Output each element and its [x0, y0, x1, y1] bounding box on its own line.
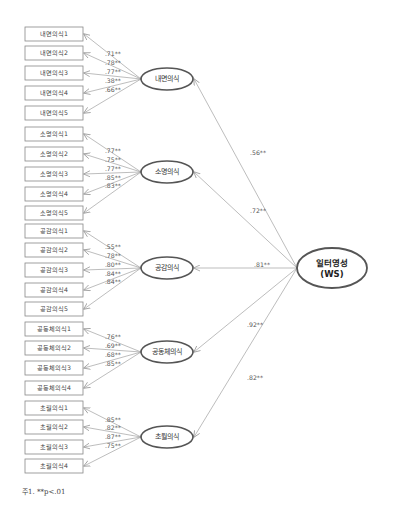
indicator-label: 공감의식2	[40, 246, 68, 254]
loading-value: .77**	[105, 147, 121, 154]
loading-value: .82**	[105, 424, 121, 431]
loading-value: .85**	[105, 174, 121, 181]
loading-value: .84**	[105, 270, 121, 277]
indicator-label: 소명의식5	[40, 209, 68, 217]
indicator-label: 소명의식1	[40, 130, 68, 138]
loading-value: .76**	[105, 333, 121, 340]
loading-value: .75**	[105, 156, 121, 163]
loading-value: .78**	[105, 252, 121, 259]
indicator-label: 초월의식4	[40, 462, 68, 470]
indicator-label: 내면의식3	[40, 69, 68, 77]
indicator-label: 공감의식5	[40, 305, 68, 313]
loading-value: .66**	[105, 86, 121, 93]
nodes-layer	[25, 27, 367, 473]
labels-layer: 내면의식1.71**내면의식2.78**내면의식3.77**내면의식4.38**…	[37, 30, 348, 470]
loading-value: .71**	[105, 50, 121, 57]
loading-arrow	[84, 79, 141, 113]
indicator-label: 소명의식2	[40, 150, 68, 158]
loading-value: .68**	[105, 351, 121, 358]
indicator-label: 공동체의식2	[37, 344, 71, 352]
indicator-label: 초월의식1	[40, 404, 68, 412]
loading-value: .77**	[105, 68, 121, 75]
loading-value: .55**	[105, 243, 121, 250]
indicator-label: 내면의식2	[40, 49, 68, 57]
indicator-label: 공동체의식4	[37, 384, 71, 392]
indicator-label: 공동체의식3	[37, 364, 71, 372]
indicator-label: 초월의식3	[40, 443, 68, 451]
factor-label: 공감의식	[155, 263, 179, 272]
indicator-label: 소명의식3	[40, 170, 68, 178]
ws-label-korean: 일터영성	[316, 258, 348, 268]
footnote: 주1. **p<.01	[22, 486, 65, 496]
ws-label-abbrev: (WS)	[320, 269, 343, 279]
second-order-loading: .92**	[247, 321, 263, 328]
second-order-loading: .72**	[250, 207, 266, 214]
factor-label: 내면의식	[155, 74, 179, 83]
second-order-arrow	[194, 79, 297, 268]
loading-value: .85**	[105, 416, 121, 423]
indicator-label: 초월의식2	[40, 423, 68, 431]
indicator-label: 내면의식4	[40, 89, 68, 97]
sem-path-diagram: 내면의식1.71**내면의식2.78**내면의식3.77**내면의식4.38**…	[0, 0, 397, 508]
factor-label: 공동체의식	[152, 347, 182, 356]
second-order-arrow	[194, 268, 297, 437]
loading-value: .69**	[105, 342, 121, 349]
second-order-arrow	[194, 268, 297, 352]
loading-value: .75**	[105, 442, 121, 449]
indicator-label: 내면의식1	[40, 30, 68, 38]
indicator-label: 공감의식1	[40, 227, 68, 235]
loading-value: .84**	[105, 278, 121, 285]
indicator-label: 공감의식3	[40, 266, 68, 274]
loading-value: .80**	[105, 261, 121, 268]
indicator-label: 공감의식4	[40, 286, 68, 294]
second-order-loading: .56**	[250, 149, 266, 156]
loading-value: .38**	[105, 77, 121, 84]
loading-value: .87**	[105, 433, 121, 440]
second-order-loading: .81**	[254, 261, 270, 268]
factor-label: 소명의식	[155, 167, 179, 176]
loading-value: .77**	[105, 165, 121, 172]
second-order-arrow	[194, 172, 297, 268]
indicator-label: 내면의식5	[40, 109, 68, 117]
loading-value: .78**	[105, 59, 121, 66]
loading-value: .85**	[105, 360, 121, 367]
indicator-label: 공동체의식1	[37, 325, 71, 333]
loading-value: .83**	[105, 182, 121, 189]
factor-label: 초월의식	[155, 432, 179, 441]
second-order-loading: .82**	[247, 374, 263, 381]
indicator-label: 소명의식4	[40, 190, 68, 198]
